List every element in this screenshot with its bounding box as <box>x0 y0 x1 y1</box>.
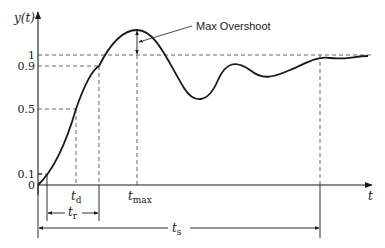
x-axis-label: t <box>368 189 373 203</box>
y-tick-0.9: 0.9 <box>18 60 36 73</box>
y-tick-labels: 1 0.9 0.5 0.1 0 <box>18 49 36 192</box>
y-tick-0: 0 <box>28 179 35 192</box>
y-tick-0.5: 0.5 <box>18 103 36 116</box>
max-overshoot-label: Max Overshoot <box>196 20 271 32</box>
axes <box>38 12 372 195</box>
ts-label: ts <box>172 221 182 237</box>
response-curve <box>38 30 368 185</box>
reference-lines <box>38 55 372 185</box>
step-response-diagram: Max Overshoot y(t) t 1 0.9 0.5 0.1 0 td … <box>0 0 385 248</box>
td-label: td <box>71 189 82 205</box>
y-axis-label: y(t) <box>13 11 35 25</box>
tmax-label: tmax <box>128 189 152 205</box>
tr-label: tr <box>68 205 78 221</box>
